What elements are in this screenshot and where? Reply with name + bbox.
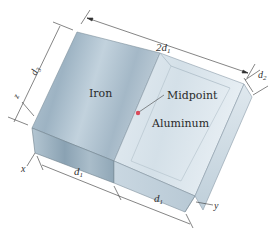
- label-midpoint: Midpoint: [167, 89, 218, 102]
- axis-label-z: z: [10, 92, 21, 101]
- label-d2: d2: [258, 69, 267, 82]
- block-diagram: 2d1 d2 d3 z x d1 d1 y Iron Aluminum Midp…: [0, 0, 272, 233]
- label-iron: Iron: [89, 87, 112, 100]
- z-axis: [22, 102, 34, 116]
- axis-label-y: y: [213, 200, 219, 211]
- label-aluminum: Aluminum: [151, 117, 210, 130]
- label-2d1: 2d1: [156, 41, 171, 55]
- axis-label-x: x: [20, 163, 26, 174]
- midpoint-marker: [136, 111, 140, 115]
- x-axis: [27, 153, 35, 166]
